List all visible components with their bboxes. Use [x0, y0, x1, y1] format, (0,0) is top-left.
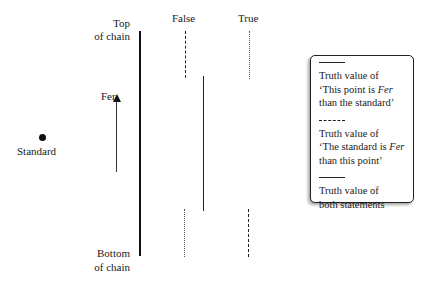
bottom-of-chain-label-line2: of chain	[80, 261, 130, 274]
legend-item-both: Truth value of both statements	[319, 184, 405, 211]
chain-line	[139, 31, 141, 256]
legend-both-line-swatch	[319, 177, 345, 178]
standard-label: Standard	[17, 145, 56, 158]
false-line-statement1-top	[185, 31, 186, 78]
false-column-label: False	[172, 12, 195, 25]
true-line-dotted-top	[249, 31, 250, 79]
both-statements-line-middle	[203, 76, 204, 211]
legend-box: Truth value of ‘This point is Fer than t…	[310, 55, 414, 203]
legend-item-standard: Truth value of ‘The standard is Fer than…	[319, 127, 405, 168]
true-line-dashed-bottom	[248, 209, 249, 257]
true-column-label: True	[238, 12, 258, 25]
fer-arrow-shaft	[116, 100, 117, 172]
top-of-chain-label-line1: Top	[80, 17, 130, 30]
bottom-of-chain-label-line1: Bottom	[80, 247, 130, 260]
top-of-chain-label-line2: of chain	[80, 30, 130, 43]
false-line-dotted-bottom	[184, 209, 185, 257]
legend-item-this-point: Truth value of ‘This point is Fer than t…	[319, 69, 405, 110]
standard-point	[39, 134, 46, 141]
legend-dashed-line-swatch	[319, 120, 345, 121]
legend-solid-line-swatch	[319, 62, 345, 63]
arrow-up-icon	[113, 94, 121, 102]
